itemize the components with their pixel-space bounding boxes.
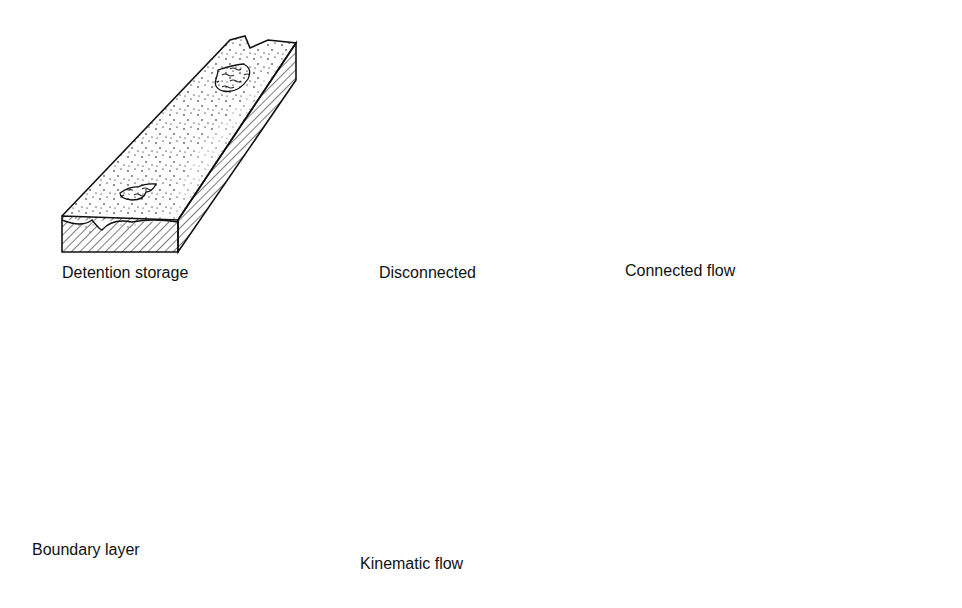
label-connected-flow: Connected flow xyxy=(625,262,735,280)
overland-flow-diagram xyxy=(0,0,962,608)
label-disconnected: Disconnected xyxy=(379,264,476,282)
label-boundary-layer: Boundary layer xyxy=(32,541,140,559)
panel-detention-storage xyxy=(62,36,296,252)
label-detention-storage: Detention storage xyxy=(62,264,188,282)
label-kinematic-flow: Kinematic flow xyxy=(360,555,463,573)
